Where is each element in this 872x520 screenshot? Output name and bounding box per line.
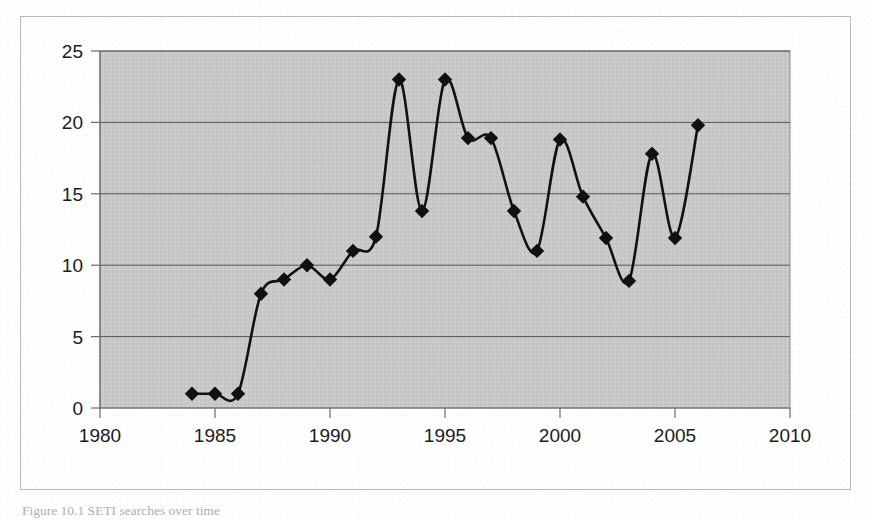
y-axis-ticks	[91, 51, 100, 408]
x-tick-label: 2005	[654, 425, 696, 446]
y-tick-label: 25	[62, 41, 83, 62]
y-tick-label: 0	[72, 398, 83, 419]
y-tick-label: 5	[72, 327, 83, 348]
plot-area	[100, 51, 790, 408]
y-tick-label: 10	[62, 255, 83, 276]
x-tick-label: 2010	[769, 425, 811, 446]
x-axis-ticks	[100, 408, 790, 418]
x-tick-label: 1980	[79, 425, 121, 446]
x-tick-label: 1985	[194, 425, 236, 446]
y-tick-label: 15	[62, 184, 83, 205]
x-tick-label: 2000	[539, 425, 581, 446]
y-tick-label: 20	[62, 112, 83, 133]
y-axis-tick-labels: 0510152025	[62, 41, 83, 419]
x-tick-label: 1990	[309, 425, 351, 446]
x-axis-tick-labels: 1980198519901995200020052010	[79, 425, 811, 446]
line-chart: 0510152025 1980198519901995200020052010	[20, 16, 851, 490]
figure-caption: Figure 10.1 SETI searches over time	[22, 503, 822, 519]
chart-canvas: 0510152025 1980198519901995200020052010	[20, 16, 851, 490]
x-tick-label: 1995	[424, 425, 466, 446]
scanned-page: 0510152025 1980198519901995200020052010 …	[0, 0, 872, 520]
